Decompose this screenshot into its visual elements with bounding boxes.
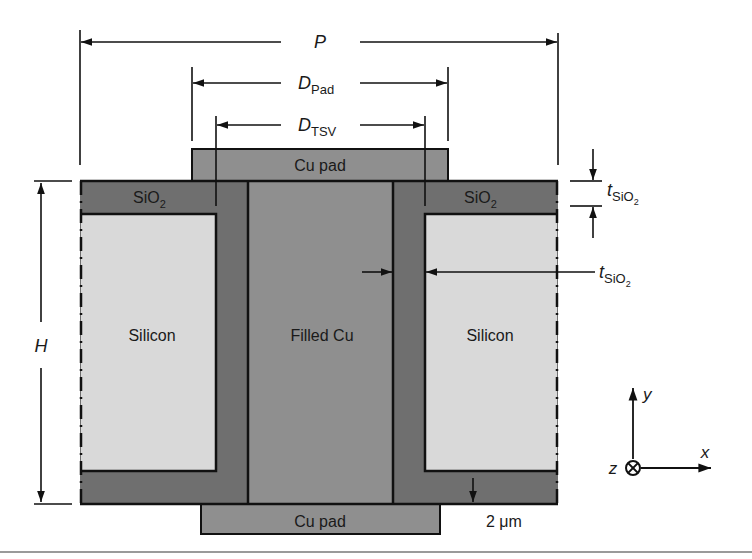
filled-cu-label: Filled Cu <box>290 327 353 344</box>
bottom-oxide-label: 2 μm <box>486 513 522 530</box>
y-axis-label: y <box>642 385 653 404</box>
silicon-right-label: Silicon <box>466 327 513 344</box>
oxide-liner-label: tSiO2 <box>599 262 631 289</box>
x-axis-label: x <box>700 443 710 462</box>
tsv-diameter-label: DTSV <box>298 115 337 139</box>
dimension-oxide-top <box>570 149 602 238</box>
pad-diameter-label: DPad <box>298 73 334 97</box>
height-label: H <box>35 336 49 356</box>
oxide-top-label: tSiO2 <box>607 180 639 207</box>
z-axis-label: z <box>608 459 618 478</box>
coordinate-axes <box>626 388 711 475</box>
pitch-label: P <box>314 32 326 52</box>
cu-pad-top-label: Cu pad <box>294 157 346 174</box>
cu-pad-bottom-label: Cu pad <box>294 513 346 530</box>
tsv-diagram: Cu pad Cu pad SiO2 SiO2 Silicon Silicon … <box>0 0 752 559</box>
silicon-left-label: Silicon <box>128 327 175 344</box>
